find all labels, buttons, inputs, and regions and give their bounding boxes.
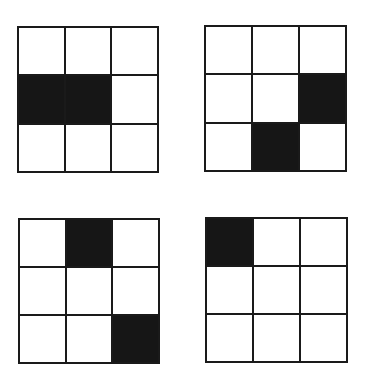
empty-cell-r1-c3 xyxy=(299,26,346,74)
filled-cell-r2-c1 xyxy=(18,75,65,123)
empty-cell-r3-c1 xyxy=(206,314,253,362)
empty-cell-r2-c3 xyxy=(112,267,159,315)
empty-cell-r2-c3 xyxy=(111,75,158,123)
empty-cell-r3-c2 xyxy=(65,124,112,172)
filled-cell-r1-c1 xyxy=(206,218,253,266)
grid-top-right xyxy=(204,25,347,172)
filled-cell-r3-c3 xyxy=(112,315,159,363)
empty-cell-r2-c1 xyxy=(206,266,253,314)
empty-cell-r3-c3 xyxy=(300,314,347,362)
grid-top-left xyxy=(17,26,159,173)
empty-cell-r2-c2 xyxy=(66,267,113,315)
empty-cell-r1-c2 xyxy=(252,26,299,74)
empty-cell-r1-c3 xyxy=(300,218,347,266)
grid-bottom-right xyxy=(205,217,348,363)
empty-cell-r3-c2 xyxy=(253,314,300,362)
empty-cell-r1-c2 xyxy=(253,218,300,266)
empty-cell-r2-c1 xyxy=(205,74,252,122)
grid-bottom-left xyxy=(18,218,160,364)
empty-cell-r2-c1 xyxy=(19,267,66,315)
filled-cell-r1-c2 xyxy=(66,219,113,267)
empty-cell-r3-c3 xyxy=(299,123,346,171)
empty-cell-r2-c2 xyxy=(252,74,299,122)
empty-cell-r1-c3 xyxy=(112,219,159,267)
empty-cell-r2-c3 xyxy=(300,266,347,314)
empty-cell-r1-c1 xyxy=(205,26,252,74)
empty-cell-r3-c3 xyxy=(111,124,158,172)
empty-cell-r1-c1 xyxy=(19,219,66,267)
empty-cell-r3-c1 xyxy=(205,123,252,171)
filled-cell-r2-c2 xyxy=(65,75,112,123)
filled-cell-r3-c2 xyxy=(252,123,299,171)
empty-cell-r1-c3 xyxy=(111,27,158,75)
empty-cell-r3-c1 xyxy=(19,315,66,363)
filled-cell-r2-c3 xyxy=(299,74,346,122)
empty-cell-r1-c1 xyxy=(18,27,65,75)
empty-cell-r3-c2 xyxy=(66,315,113,363)
empty-cell-r3-c1 xyxy=(18,124,65,172)
empty-cell-r2-c2 xyxy=(253,266,300,314)
empty-cell-r1-c2 xyxy=(65,27,112,75)
